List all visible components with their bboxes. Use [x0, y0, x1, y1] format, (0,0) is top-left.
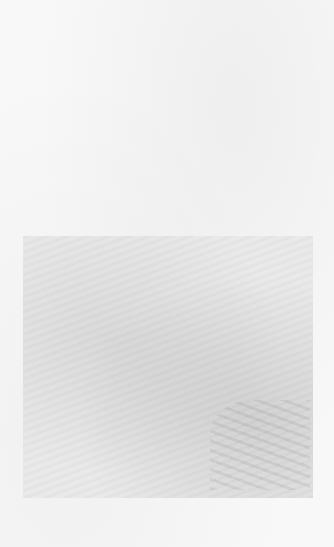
paper-page — [0, 0, 334, 547]
bleed-through-texture — [210, 400, 310, 490]
